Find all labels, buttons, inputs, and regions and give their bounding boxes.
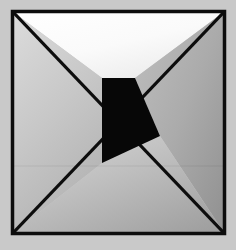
artwork-canvas (0, 0, 236, 250)
abstract-pinwheel-figure (0, 0, 236, 250)
